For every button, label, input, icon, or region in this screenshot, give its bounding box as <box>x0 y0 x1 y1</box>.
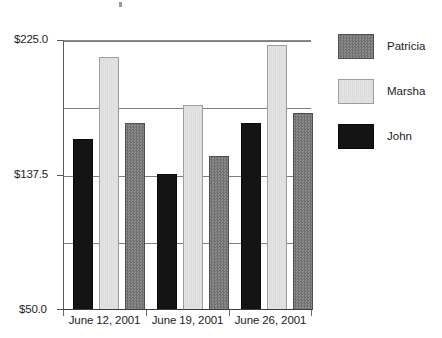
legend-item-john: John <box>338 123 442 149</box>
bar-marsha-3 <box>267 45 287 310</box>
bar-patricia-1 <box>125 123 145 310</box>
legend-label-marsha: Marsha <box>387 85 425 97</box>
bar-john-3 <box>241 123 261 310</box>
marsha-swatch-icon <box>338 79 374 104</box>
y-axis-label-min: $50.0 <box>19 303 57 315</box>
bar-patricia-3 <box>293 113 313 311</box>
bar-john-2 <box>157 174 177 310</box>
legend-item-patricia: Patricia <box>338 33 442 59</box>
x-axis-line <box>63 309 312 310</box>
patricia-swatch-icon <box>338 34 374 59</box>
legend-label-patricia: Patricia <box>387 40 425 52</box>
bar-john-1 <box>73 139 93 310</box>
y-axis-label-mid: $137.5 <box>14 168 57 180</box>
x-axis-label-2: June 26, 2001 <box>229 314 312 326</box>
legend-label-john: John <box>387 130 412 142</box>
plot-area <box>63 40 311 310</box>
bar-marsha-2 <box>183 105 203 310</box>
gridline-225 <box>64 41 311 42</box>
y-axis-label-max: $225.0 <box>14 33 57 45</box>
chart-legend: Patricia Marsha John <box>338 33 442 168</box>
bar-marsha-1 <box>99 57 119 310</box>
page-artifact <box>119 2 122 7</box>
x-axis-label-1: June 19, 2001 <box>146 314 229 326</box>
x-axis-label-0: June 12, 2001 <box>63 314 146 326</box>
bar-chart: $225.0 $137.5 $50.0 June 12, 2001 June 1… <box>0 0 442 338</box>
legend-item-marsha: Marsha <box>338 78 442 104</box>
bar-patricia-2 <box>209 156 229 310</box>
john-swatch-icon <box>338 124 374 149</box>
